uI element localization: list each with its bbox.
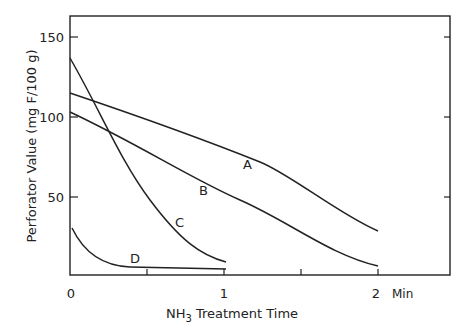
label-a: A [243,157,252,172]
x-axis-title: NH3 Treatment Time [166,306,298,324]
y-tick-150: 150 [39,30,64,45]
x-tick-0: 0 [67,286,75,301]
x-ticks [147,269,378,275]
y-ticks [70,37,450,197]
x-unit: Min [392,287,413,301]
series-d-line [72,228,226,269]
x-axis-title-nh: NH [166,306,186,321]
x-tick-1: 1 [220,286,228,301]
label-d: D [130,251,140,266]
x-tick-2: 2 [372,286,380,301]
label-b: B [199,183,208,198]
chart: 150 100 50 0 1 2 Min Perforator Value (m… [0,0,475,334]
label-c: C [175,215,184,230]
series-a-line [70,93,378,231]
y-axis-title: Perforator Value (mg F/100 g) [24,49,39,242]
plot-frame [70,16,450,275]
y-tick-100: 100 [39,110,64,125]
y-tick-50: 50 [47,190,64,205]
series-c-line [70,58,226,262]
x-axis-title-rest: Treatment Time [192,306,298,321]
series-b-line [70,112,378,266]
